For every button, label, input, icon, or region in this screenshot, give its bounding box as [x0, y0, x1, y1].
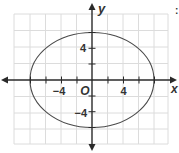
y-axis-label: y [97, 1, 106, 16]
y-tick-label-4: 4 [80, 42, 87, 54]
y-axis-up-arrow-icon [89, 3, 96, 10]
x-axis-left-arrow-icon [1, 77, 8, 84]
x-axis-label: x [170, 82, 179, 96]
origin-label: O [80, 84, 90, 98]
y-tick-label-neg4: −4 [74, 107, 87, 119]
y-axis-down-arrow-icon [89, 144, 96, 151]
ellipse-coordinate-diagram: −4 4 4 −4 O y x : [0, 0, 179, 153]
grid [14, 14, 168, 144]
edge-text-fragment: : [175, 5, 178, 16]
x-tick-label-4: 4 [120, 85, 127, 97]
x-tick-label-neg4: −4 [53, 85, 66, 97]
